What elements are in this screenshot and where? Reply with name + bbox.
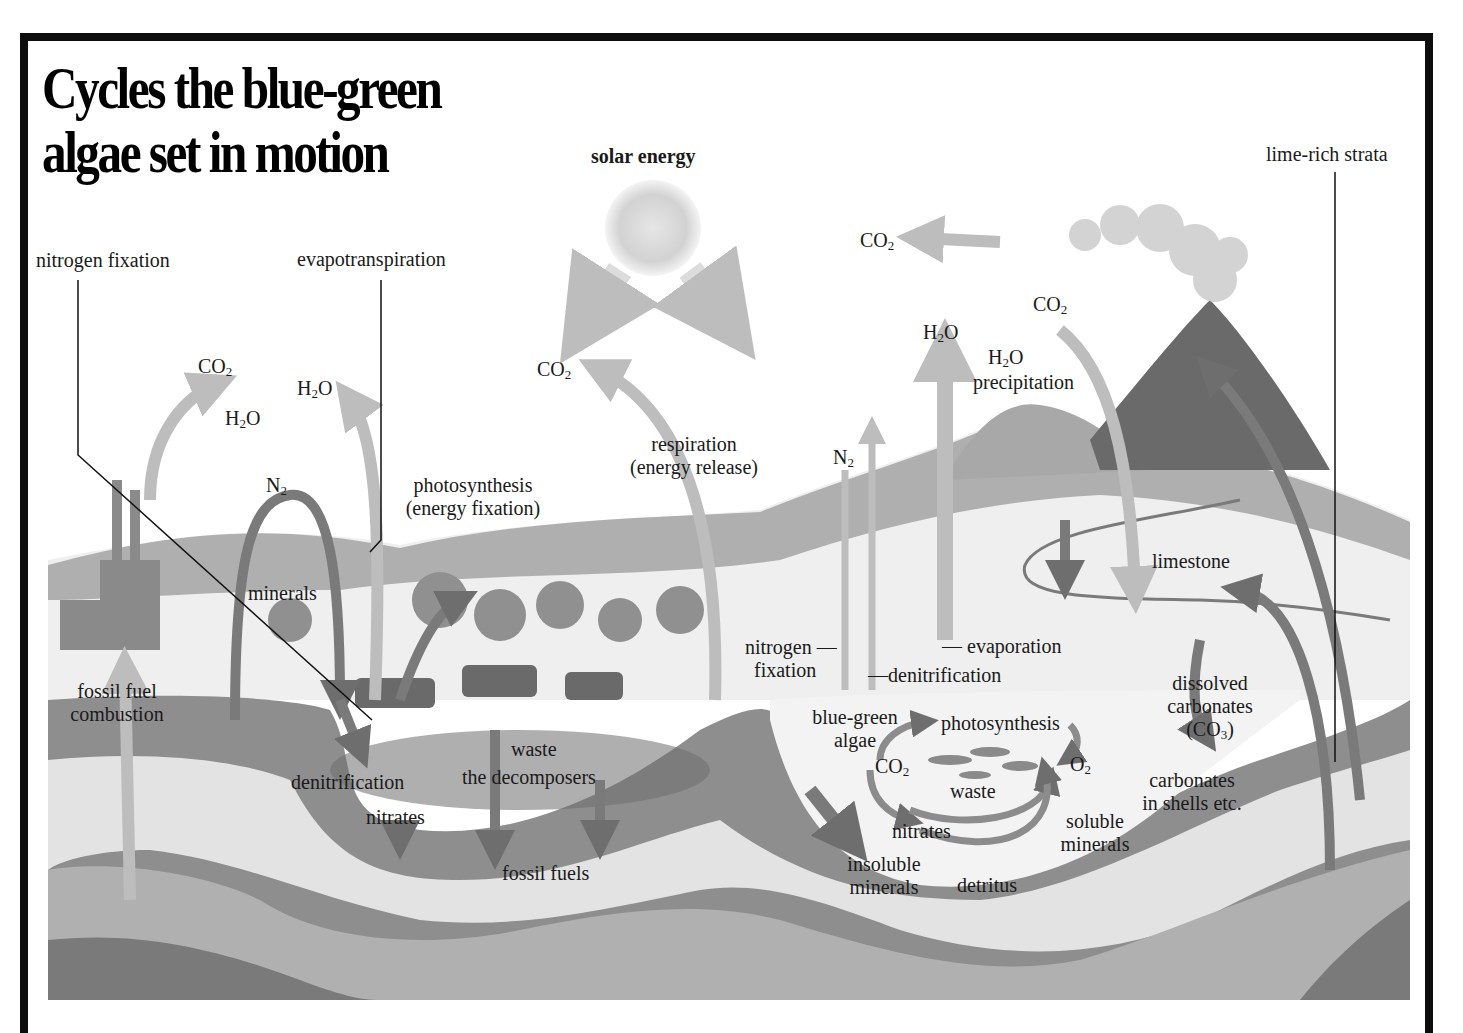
label-fossil-fuel-combustion: fossil fuelcombustion xyxy=(58,680,176,726)
label-the-decomposers: the decomposers xyxy=(462,766,596,789)
label-detritus: detritus xyxy=(957,874,1017,897)
solar-arrow-left xyxy=(588,270,620,320)
sun-icon xyxy=(605,180,701,276)
label-fossil-fuels: fossil fuels xyxy=(502,862,589,885)
label-carbonates-in-shells: carbonatesin shells etc. xyxy=(1133,769,1251,815)
label-h2o-factory: H2O xyxy=(225,407,260,435)
label-nitrogen-fixation-lake-1: nitrogen — xyxy=(745,636,837,659)
label-evaporation: — evaporation xyxy=(942,635,1061,658)
label-denitrification-lake: —denitrification xyxy=(868,664,1001,687)
label-h2o-precipitation: H2O xyxy=(988,346,1023,374)
label-evapotranspiration: evapotranspiration xyxy=(297,248,446,271)
label-respiration: respiration(energy release) xyxy=(618,433,770,479)
diagram-title: Cycles the blue-green algae set in motio… xyxy=(42,56,440,184)
label-h2o-evaporation: H2O xyxy=(923,321,958,349)
label-waste-lake: waste xyxy=(950,780,996,803)
label-precipitation: precipitation xyxy=(973,371,1074,394)
label-limestone: limestone xyxy=(1152,550,1230,573)
title-line-2: algae set in motion xyxy=(42,120,440,184)
label-nitrates-soil: nitrates xyxy=(366,806,425,829)
label-blue-green-algae: blue-greenalgae xyxy=(800,706,910,752)
label-co2-volcano-plume: CO2 xyxy=(860,229,894,257)
label-h2o-evapotranspiration: H2O xyxy=(297,377,332,405)
solar-arrow-right xyxy=(690,270,725,318)
label-o2-lake: O2 xyxy=(1070,753,1091,781)
label-nitrogen-fixation-callout: nitrogen fixation xyxy=(36,249,170,272)
label-co2-factory: CO2 xyxy=(198,355,232,383)
label-nitrates-lake: nitrates xyxy=(892,820,951,843)
label-n2-left: N2 xyxy=(266,474,287,502)
label-dissolved-carbonates: dissolvedcarbonates(CO3) xyxy=(1155,672,1265,746)
label-soluble-minerals: solubleminerals xyxy=(1055,810,1135,856)
label-photosynthesis-land: photosynthesis(energy fixation) xyxy=(398,474,548,520)
label-minerals: minerals xyxy=(248,582,317,605)
label-co2-lake: CO2 xyxy=(875,755,909,783)
label-solar-energy: solar energy xyxy=(591,145,696,168)
label-lime-rich-strata: lime-rich strata xyxy=(1266,143,1388,166)
label-waste-soil: waste xyxy=(511,738,557,761)
label-co2-respiration: CO2 xyxy=(537,358,571,386)
label-co2-volcano: CO2 xyxy=(1033,293,1067,321)
label-insoluble-minerals: insolubleminerals xyxy=(836,853,932,899)
label-nitrogen-fixation-lake-2: fixation xyxy=(754,659,816,682)
title-line-1: Cycles the blue-green xyxy=(42,56,440,120)
label-photosynthesis-lake: photosynthesis xyxy=(941,712,1060,735)
label-denitrification-soil: denitrification xyxy=(291,771,404,794)
label-n2-right: N2 xyxy=(833,446,854,474)
